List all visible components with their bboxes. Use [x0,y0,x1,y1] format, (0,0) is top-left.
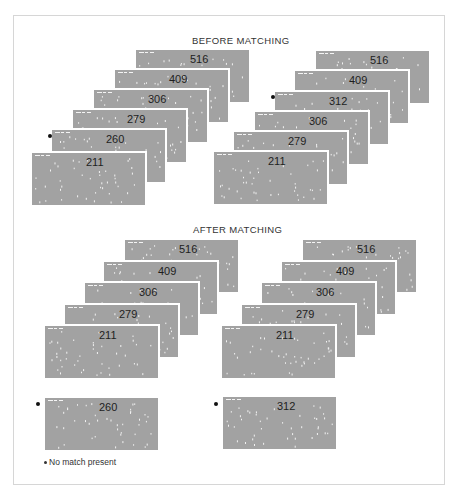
card-number: 409 [158,265,176,277]
card-number: 211 [276,329,294,341]
legend-note: No match present [44,457,116,467]
card-number: 279 [119,308,137,320]
card-number: 516 [190,53,208,65]
card-number: 211 [268,155,286,167]
unmatched-card-left: 260 [45,398,158,450]
card-number: 211 [99,329,117,341]
card-number: 312 [329,95,347,107]
card-number: 260 [106,133,124,145]
punched-card: 211 [32,153,145,205]
before-matching-title: BEFORE MATCHING [192,35,290,46]
card-number: 516 [370,54,388,66]
asterisk-marker-icon [271,95,275,99]
card-number: 409 [336,265,354,277]
card-number: 260 [99,401,117,413]
punched-card: 211 [222,326,335,378]
card-number: 409 [169,73,187,85]
card-number: 279 [288,135,306,147]
punched-card: 211 [214,152,327,204]
card-number: 516 [179,243,197,255]
unmatched-card-right: 312 [223,397,336,449]
card-number: 279 [127,113,145,125]
after-matching-title: AFTER MATCHING [193,224,282,235]
asterisk-marker-icon [36,402,40,406]
card-number: 306 [139,286,157,298]
card-number: 409 [349,74,367,86]
card-number: 306 [309,115,327,127]
asterisk-marker-icon [44,461,47,464]
card-number: 279 [296,308,314,320]
card-number: 211 [86,156,104,168]
legend-text: No match present [49,457,116,467]
asterisk-marker-icon [214,402,218,406]
card-number: 516 [357,243,375,255]
asterisk-marker-icon [48,134,52,138]
card-number: 306 [148,93,166,105]
punched-card: 211 [45,326,158,378]
card-number: 312 [277,400,295,412]
card-number: 306 [316,286,334,298]
